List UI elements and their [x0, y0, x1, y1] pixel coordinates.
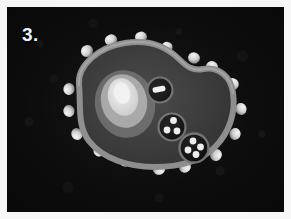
organelle-lower: [180, 134, 209, 163]
cell-illustration: [7, 7, 284, 212]
figure-panel: 3.: [0, 0, 291, 219]
organelle-upper: [148, 78, 173, 103]
organelle-middle: [159, 114, 186, 141]
panel-label: 3.: [22, 24, 39, 46]
micrograph-plate: 3.: [7, 7, 284, 212]
